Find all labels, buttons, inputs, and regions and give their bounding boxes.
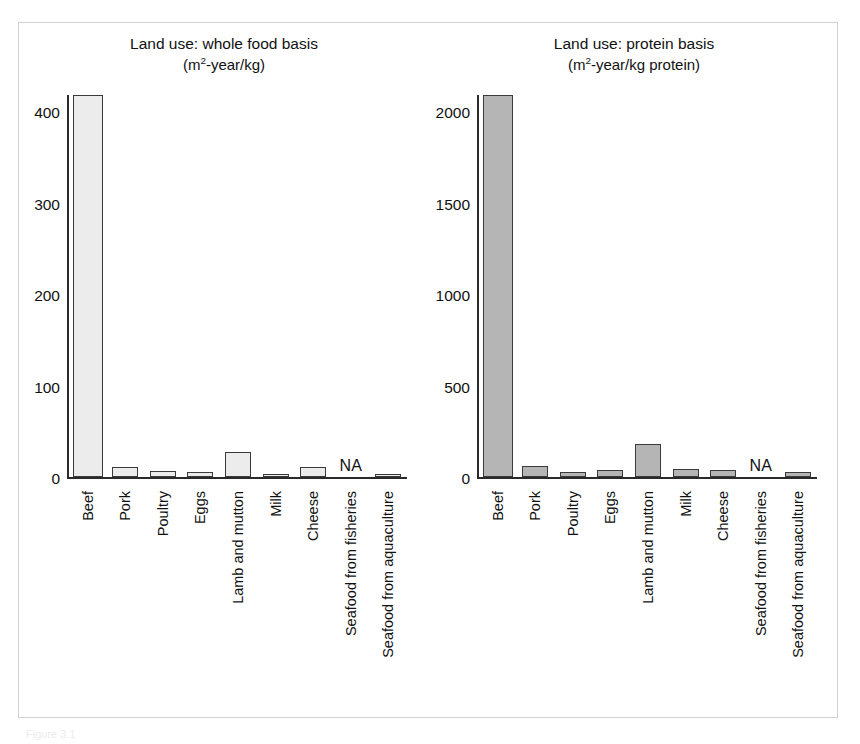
- x-axis-label: Cheese: [715, 491, 731, 541]
- figure-frame: Land use: whole food basis (m2-year/kg) …: [18, 22, 838, 718]
- x-axis-label: Milk: [268, 491, 284, 517]
- bar-slot: [144, 95, 182, 477]
- bar[interactable]: [225, 452, 251, 477]
- y-tick-label: 300: [34, 196, 60, 214]
- x-label-slot: Cheese: [704, 487, 742, 707]
- bar[interactable]: [483, 95, 513, 477]
- x-axis-label: Poultry: [565, 491, 581, 536]
- chart-subtitle-left: (m2-year/kg): [19, 54, 429, 75]
- chart-title-left: Land use: whole food basis (m2-year/kg): [19, 33, 429, 75]
- x-label-slot: Seafood from aquaculture: [780, 487, 818, 707]
- x-label-slot: Pork: [517, 487, 555, 707]
- x-label-slot: Cheese: [294, 487, 332, 707]
- x-axis-label: Lamb and mutton: [230, 491, 246, 604]
- bar[interactable]: [597, 470, 623, 478]
- x-axis-label: Pork: [117, 491, 133, 521]
- y-tick-label: 0: [461, 470, 470, 488]
- x-axis-line-right: [477, 477, 817, 479]
- y-tick-label: 100: [34, 379, 60, 397]
- x-axis-label: Eggs: [602, 491, 618, 524]
- bar-group-right: NA: [479, 95, 817, 477]
- y-tick-label: 1500: [436, 196, 470, 214]
- x-axis-label: Lamb and mutton: [640, 491, 656, 604]
- bar-slot: [592, 95, 630, 477]
- bar-slot: [69, 95, 107, 477]
- x-axis-labels-right: BeefPorkPoultryEggsLamb and muttonMilkCh…: [479, 487, 817, 707]
- bar-group-left: NA: [69, 95, 407, 477]
- x-label-slot: Lamb and mutton: [629, 487, 667, 707]
- x-axis-label: Seafood from fisheries: [343, 491, 359, 636]
- y-tick-label: 200: [34, 287, 60, 305]
- x-axis-label: Pork: [527, 491, 543, 521]
- x-label-slot: Poultry: [554, 487, 592, 707]
- x-label-slot: Seafood from aquaculture: [370, 487, 408, 707]
- bar[interactable]: [263, 474, 289, 477]
- x-label-slot: Lamb and mutton: [219, 487, 257, 707]
- na-label: NA: [750, 457, 772, 475]
- bar[interactable]: [673, 469, 699, 477]
- y-tick-label: 500: [444, 379, 470, 397]
- chart-subtitle-right: (m2-year/kg protein): [429, 54, 839, 75]
- x-label-slot: Seafood from fisheries: [332, 487, 370, 707]
- x-axis-label: Eggs: [192, 491, 208, 524]
- x-axis-label: Cheese: [305, 491, 321, 541]
- x-label-slot: Poultry: [144, 487, 182, 707]
- bar-slot: NA: [332, 95, 370, 477]
- bar-slot: [629, 95, 667, 477]
- bar-slot: NA: [742, 95, 780, 477]
- x-label-slot: Beef: [69, 487, 107, 707]
- bar-slot: [517, 95, 555, 477]
- x-label-slot: Milk: [257, 487, 295, 707]
- bar[interactable]: [635, 444, 661, 478]
- x-label-slot: Beef: [479, 487, 517, 707]
- plot-area-left: 0100200300400 NA: [67, 95, 407, 479]
- bar-slot: [704, 95, 742, 477]
- bar-slot: [107, 95, 145, 477]
- bar-slot: [780, 95, 818, 477]
- x-axis-label: Milk: [678, 491, 694, 517]
- x-label-slot: Pork: [107, 487, 145, 707]
- x-axis-label: Seafood from aquaculture: [380, 491, 396, 658]
- bar-slot: [667, 95, 705, 477]
- x-label-slot: Eggs: [592, 487, 630, 707]
- bar[interactable]: [73, 95, 103, 477]
- chart-title-right-main: Land use: protein basis: [554, 35, 714, 52]
- bar-slot: [479, 95, 517, 477]
- y-tick-label: 0: [51, 470, 60, 488]
- bar-slot: [182, 95, 220, 477]
- bar[interactable]: [187, 472, 213, 477]
- bar-slot: [554, 95, 592, 477]
- chart-panel-whole-food-basis: Land use: whole food basis (m2-year/kg) …: [19, 23, 429, 719]
- y-tick-label: 1000: [436, 287, 470, 305]
- bar[interactable]: [522, 466, 548, 478]
- x-label-slot: Seafood from fisheries: [742, 487, 780, 707]
- x-axis-label: Beef: [80, 491, 96, 521]
- bar[interactable]: [375, 474, 401, 478]
- y-tick-label: 2000: [436, 104, 470, 122]
- chart-title-right: Land use: protein basis (m2-year/kg prot…: [429, 33, 839, 75]
- bar-slot: [257, 95, 295, 477]
- caption-fragment: Figure 3.1: [26, 728, 326, 740]
- na-label: NA: [340, 457, 362, 475]
- bar[interactable]: [710, 470, 736, 478]
- x-axis-label: Seafood from fisheries: [753, 491, 769, 636]
- x-axis-label: Poultry: [155, 491, 171, 536]
- bar-slot: [370, 95, 408, 477]
- y-tick-label: 400: [34, 104, 60, 122]
- x-label-slot: Eggs: [182, 487, 220, 707]
- bar[interactable]: [150, 471, 176, 477]
- bar[interactable]: [300, 467, 326, 478]
- plot-area-right: 0500100015002000 NA: [477, 95, 817, 479]
- bar[interactable]: [112, 467, 138, 477]
- x-axis-label: Beef: [490, 491, 506, 521]
- bar[interactable]: [560, 472, 586, 477]
- x-label-slot: Milk: [667, 487, 705, 707]
- chart-panel-protein-basis: Land use: protein basis (m2-year/kg prot…: [429, 23, 839, 719]
- bar-slot: [219, 95, 257, 477]
- x-axis-labels-left: BeefPorkPoultryEggsLamb and muttonMilkCh…: [69, 487, 407, 707]
- chart-title-left-main: Land use: whole food basis: [130, 35, 318, 52]
- bar[interactable]: [785, 472, 811, 477]
- x-axis-line-left: [67, 477, 407, 479]
- x-axis-label: Seafood from aquaculture: [790, 491, 806, 658]
- bar-slot: [294, 95, 332, 477]
